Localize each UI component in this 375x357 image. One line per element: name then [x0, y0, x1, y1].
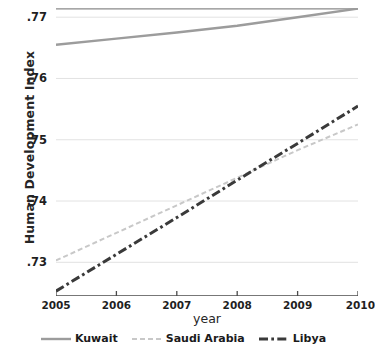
- x-tick-label: 2005: [41, 299, 70, 311]
- data-series-layer: [56, 9, 358, 291]
- legend-label: Saudi Arabia: [166, 332, 245, 345]
- chart-legend: KuwaitSaudi ArabiaLibya: [0, 332, 367, 345]
- axis-lines: [56, 9, 358, 296]
- x-tick-label: 2006: [102, 299, 131, 311]
- legend-label: Kuwait: [75, 332, 118, 345]
- legend-swatch-solid: [41, 334, 71, 344]
- y-tick-label: .73: [0, 255, 47, 269]
- y-tick-label: .77: [0, 10, 47, 24]
- x-tick-label: 2007: [162, 299, 191, 311]
- legend-item-saudi-arabia[interactable]: Saudi Arabia: [132, 332, 245, 345]
- x-tick-label: 2009: [283, 299, 312, 311]
- y-tick-label: .75: [0, 133, 47, 147]
- y-tick-label: .74: [0, 194, 47, 208]
- y-tick-label: .76: [0, 71, 47, 85]
- gridlines: [56, 17, 358, 262]
- series-line-kuwait: [56, 9, 358, 45]
- legend-swatch-dashdot: [259, 334, 289, 344]
- legend-item-kuwait[interactable]: Kuwait: [41, 332, 118, 345]
- legend-label: Libya: [293, 332, 326, 345]
- legend-swatch-dashed: [132, 334, 162, 344]
- x-tick-label: 2008: [223, 299, 252, 311]
- plot-area: [56, 8, 358, 296]
- plot-canvas: [56, 8, 358, 296]
- series-line-saudi-arabia: [56, 124, 358, 260]
- legend-item-libya[interactable]: Libya: [259, 332, 326, 345]
- y-axis-title: Human Development Index: [22, 33, 37, 263]
- x-axis-title: year: [56, 311, 358, 326]
- series-line-libya: [56, 106, 358, 291]
- x-tick-label: 2010: [346, 299, 375, 311]
